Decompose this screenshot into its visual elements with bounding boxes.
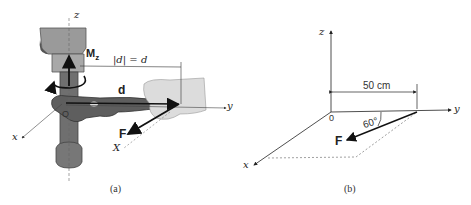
y-axis-label: y	[454, 104, 460, 114]
hand-icon	[144, 78, 206, 119]
x-axis-label: x	[243, 160, 249, 170]
x-axis	[22, 104, 62, 138]
y-axis	[331, 110, 451, 112]
moment-label: Mz	[86, 48, 99, 62]
x-axis	[254, 112, 331, 165]
z-axis-label: z	[74, 10, 79, 20]
panel-a-wrench-figure: z Mz |d| = d d O y x F X (a)	[0, 0, 235, 205]
schematic-diagram	[235, 0, 471, 205]
magnitude-label: |d| = d	[113, 55, 147, 65]
distance-label: 50 cm	[363, 81, 390, 91]
projection-dotted-lines	[268, 112, 417, 158]
panel-b-schematic-figure: z 50 cm 0 y 60° F x (b)	[235, 0, 471, 205]
y-axis-label: y	[227, 101, 233, 111]
moment-label-main: M	[86, 47, 95, 59]
wrench-illustration	[0, 0, 235, 205]
caption-a: (a)	[110, 184, 121, 194]
caption-b: (b)	[344, 184, 356, 194]
force-label: F	[335, 135, 342, 147]
position-vector-label: d	[118, 84, 125, 96]
origin-label: O	[62, 110, 69, 119]
moment-label-subscript: z	[95, 53, 99, 62]
origin-label: 0	[329, 114, 334, 123]
X-axis-label: X	[113, 143, 120, 153]
z-axis-label: z	[319, 27, 324, 37]
force-vector-F	[347, 112, 417, 140]
pipe-fitting-icon	[40, 28, 86, 72]
x-axis-label: x	[12, 132, 18, 142]
force-label: F	[119, 128, 126, 140]
position-vector-d	[66, 103, 178, 104]
